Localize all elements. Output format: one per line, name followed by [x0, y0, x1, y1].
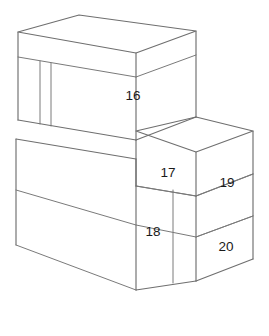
block-diagram-canvas: 16 17 18 19 20	[0, 0, 269, 336]
block-label-16: 16	[125, 88, 140, 103]
block-label-19: 19	[219, 175, 234, 190]
isometric-block-diagram: 16 17 18 19 20	[0, 0, 269, 336]
block-label-20: 20	[218, 239, 233, 254]
block-label-18: 18	[145, 224, 160, 239]
block-label-17: 17	[160, 165, 175, 180]
